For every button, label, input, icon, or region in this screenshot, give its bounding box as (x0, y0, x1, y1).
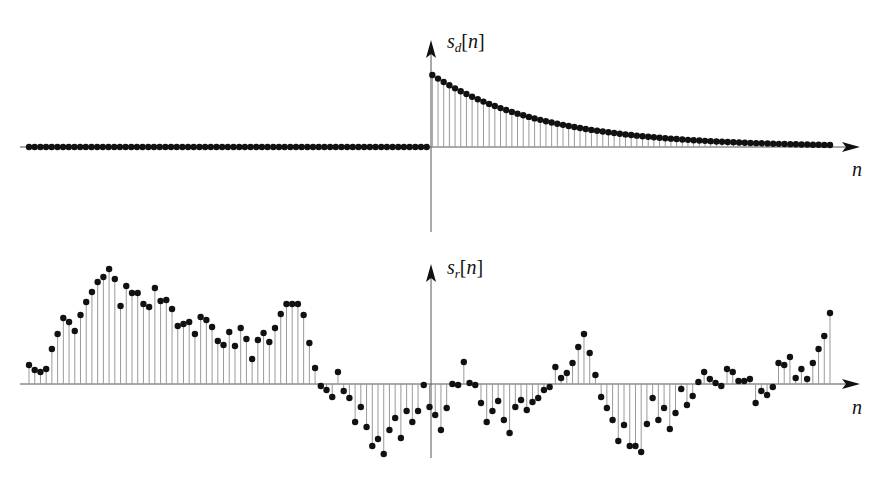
data-point (255, 337, 261, 343)
data-point (323, 387, 329, 393)
data-point (492, 103, 498, 109)
data-point (615, 438, 621, 444)
data-point (381, 451, 387, 457)
data-point (162, 144, 168, 150)
data-point (541, 387, 547, 393)
data-point (363, 424, 369, 430)
data-point (100, 274, 106, 280)
data-point (446, 82, 452, 88)
data-point (718, 383, 724, 389)
data-point (497, 105, 503, 111)
data-point (140, 301, 146, 307)
data-point (810, 141, 816, 147)
data-point (49, 346, 55, 352)
data-point (438, 427, 444, 433)
data-point (259, 144, 265, 150)
data-point (702, 138, 708, 144)
data-point (146, 304, 152, 310)
data-point (645, 134, 651, 140)
data-point (592, 372, 598, 378)
data-point (486, 101, 492, 107)
bottom-y-axis-label: sr[n] (447, 256, 483, 282)
data-point (810, 360, 816, 366)
data-point (105, 144, 111, 150)
data-point (461, 359, 467, 365)
data-point (26, 144, 32, 150)
data-point (300, 312, 306, 318)
top-x-axis-label: n (852, 158, 862, 181)
data-point (180, 321, 186, 327)
data-point (724, 366, 730, 372)
data-point (203, 317, 209, 323)
data-point (730, 139, 736, 145)
data-point (304, 144, 310, 150)
data-point (725, 139, 731, 145)
data-point (781, 141, 787, 147)
data-point (775, 360, 781, 366)
data-point (32, 367, 38, 373)
data-point (340, 388, 346, 394)
data-point (509, 109, 515, 115)
data-point (443, 405, 449, 411)
data-point (335, 369, 341, 375)
data-point (520, 112, 526, 118)
data-point (554, 121, 560, 127)
data-point (679, 136, 685, 142)
data-point (529, 399, 535, 405)
data-point (466, 380, 472, 386)
data-point (123, 283, 129, 289)
data-point (287, 144, 293, 150)
data-point (321, 144, 327, 150)
data-point (31, 144, 37, 150)
data-point (145, 144, 151, 150)
data-point (392, 415, 398, 421)
data-point (232, 343, 238, 349)
data-point (435, 75, 441, 81)
data-point (26, 362, 32, 368)
data-point (260, 330, 266, 336)
top-y-axis-label: sd[n] (447, 30, 485, 56)
data-point (747, 376, 753, 382)
data-point (678, 386, 684, 392)
data-point (89, 289, 95, 295)
data-point (270, 144, 276, 150)
top-stem-chart (20, 40, 860, 232)
data-point (792, 375, 798, 381)
data-point (389, 144, 395, 150)
data-point (401, 144, 407, 150)
data-point (583, 126, 589, 132)
data-point (712, 380, 718, 386)
data-point (242, 144, 248, 150)
data-point (673, 136, 679, 142)
data-point (54, 144, 60, 150)
data-point (696, 137, 702, 143)
data-point (186, 319, 192, 325)
data-point (827, 310, 833, 316)
data-point (503, 107, 509, 113)
data-point (175, 323, 181, 329)
data-point (426, 404, 432, 410)
data-point (609, 417, 615, 423)
data-point (236, 144, 242, 150)
data-point (289, 301, 295, 307)
data-point (202, 144, 208, 150)
data-point (458, 88, 464, 94)
data-point (316, 144, 322, 150)
data-point (588, 127, 594, 133)
data-point (329, 394, 335, 400)
data-point (293, 144, 299, 150)
data-point (695, 379, 701, 385)
data-point (518, 397, 524, 403)
data-point (432, 412, 438, 418)
data-point (531, 115, 537, 121)
data-point (634, 132, 640, 138)
data-point (344, 144, 350, 150)
data-point (478, 400, 484, 406)
data-point (455, 382, 461, 388)
data-point (821, 333, 827, 339)
data-point (421, 382, 427, 388)
data-point (617, 131, 623, 137)
data-point (526, 114, 532, 120)
data-point (639, 133, 645, 139)
data-point (798, 366, 804, 372)
